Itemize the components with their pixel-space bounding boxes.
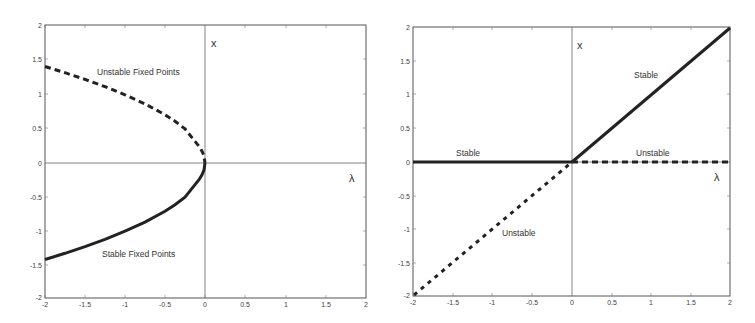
svg-text:-1.5: -1.5: [398, 260, 410, 267]
svg-text:1.5: 1.5: [32, 56, 42, 63]
x-axis-label: λ: [349, 172, 355, 184]
svg-text:-0.5: -0.5: [526, 299, 538, 306]
x-ticks: [45, 25, 326, 298]
y-tick-labels: 2 1.5 1 0.5 0 -0.5 -1 -1.5 -2: [398, 24, 410, 299]
stable-right-label: Stable: [634, 70, 658, 80]
svg-text:1: 1: [38, 91, 42, 98]
svg-text:1: 1: [649, 299, 653, 306]
svg-text:-0.5: -0.5: [30, 194, 42, 201]
svg-text:1.5: 1.5: [400, 58, 410, 65]
svg-text:0: 0: [203, 301, 207, 308]
svg-text:1.5: 1.5: [321, 301, 331, 308]
stable-fixed-points-label: Stable Fixed Points: [102, 249, 175, 259]
svg-text:-2: -2: [42, 301, 48, 308]
svg-text:1.5: 1.5: [686, 299, 696, 306]
left-bifurcation-chart: -2 -1.5 -1 -0.5 0 0.5 1 1.5 2 2 1.5 1 0.…: [0, 0, 380, 323]
svg-text:-2: -2: [410, 299, 416, 306]
unstable-diagonal-branch-line: [414, 162, 572, 295]
svg-text:0: 0: [406, 159, 410, 166]
y-axis-label: x: [211, 37, 217, 49]
svg-text:2: 2: [728, 299, 732, 306]
svg-text:-2: -2: [36, 294, 42, 301]
unstable-left-label: Unstable: [502, 228, 536, 238]
y-axis-label: x: [577, 39, 583, 51]
svg-text:0.5: 0.5: [240, 301, 250, 308]
x-tick-labels: -2 -1.5 -1 -0.5 0 0.5 1 1.5 2: [42, 301, 368, 308]
svg-text:-1.5: -1.5: [30, 262, 42, 269]
svg-text:-0.5: -0.5: [159, 301, 171, 308]
svg-text:2: 2: [364, 301, 368, 308]
unstable-branch-curve: [45, 67, 205, 164]
stable-branch-curve: [45, 163, 205, 260]
svg-text:0.5: 0.5: [32, 125, 42, 132]
svg-text:-0.5: -0.5: [398, 193, 410, 200]
right-bifurcation-chart: -2 -1.5 -1 -0.5 0 0.5 1 1.5 2 2 1.5 1 0.…: [380, 0, 755, 323]
svg-text:0.5: 0.5: [400, 125, 410, 132]
svg-text:0.5: 0.5: [607, 299, 617, 306]
unstable-fixed-points-label: Unstable Fixed Points: [97, 67, 180, 77]
svg-text:-1: -1: [489, 299, 495, 306]
svg-text:-1: -1: [404, 226, 410, 233]
svg-text:-1.5: -1.5: [79, 301, 91, 308]
svg-text:2: 2: [38, 22, 42, 29]
svg-text:-1.5: -1.5: [447, 299, 459, 306]
x-tick-labels: -2 -1.5 -1 -0.5 0 0.5 1 1.5 2: [410, 299, 732, 306]
svg-text:0: 0: [570, 299, 574, 306]
unstable-right-label: Unstable: [636, 148, 670, 158]
svg-text:-2: -2: [404, 292, 410, 299]
y-tick-labels: 2 1.5 1 0.5 0 -0.5 -1 -1.5 -2: [30, 22, 42, 301]
stable-diagonal-branch-line: [572, 28, 730, 162]
stable-left-label: Stable: [456, 148, 480, 158]
svg-text:2: 2: [406, 24, 410, 31]
svg-text:0: 0: [38, 160, 42, 167]
svg-text:1: 1: [406, 91, 410, 98]
svg-text:1: 1: [284, 301, 288, 308]
x-axis-label: λ: [714, 171, 720, 183]
svg-text:-1: -1: [36, 228, 42, 235]
svg-text:-1: -1: [122, 301, 128, 308]
